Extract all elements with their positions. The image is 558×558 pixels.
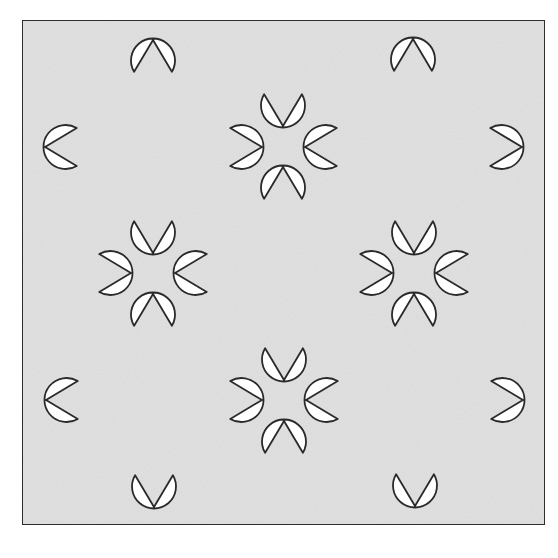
teardrop-pattern-figure [0, 0, 558, 558]
gray-panel [22, 20, 545, 525]
figure-stage [0, 0, 558, 558]
